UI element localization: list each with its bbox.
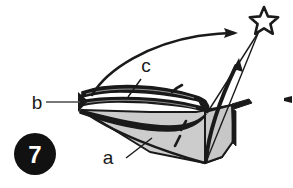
right-edge-tick-icon: [284, 96, 292, 103]
sweep-arrow-head: [224, 28, 238, 38]
star-marker: [250, 7, 278, 34]
right-flange: [232, 99, 252, 109]
label-b: b: [32, 92, 43, 113]
label-a: a: [103, 147, 114, 168]
figure-number-badge: 7: [14, 133, 56, 175]
figure-illustration: a b c 7: [0, 0, 293, 188]
layered-bands-group: [78, 85, 210, 131]
illustration-canvas: a b c 7: [0, 0, 293, 188]
right-edge-rib: [232, 108, 236, 146]
sweep-arrow-group: [92, 28, 238, 95]
label-c: c: [141, 55, 151, 76]
star-icon: [250, 7, 278, 34]
badge-number-text: 7: [28, 141, 41, 168]
